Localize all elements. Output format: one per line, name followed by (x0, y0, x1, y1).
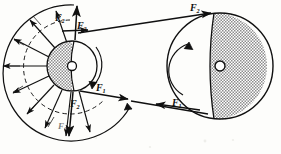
belt-lower-span-right (131, 101, 208, 114)
right-rotation-arrowhead (184, 42, 193, 50)
label-f1-right-bottom: F1 (172, 98, 182, 108)
belt-drive-diagram: F2 F2 F1 F2 F1 F2 F1 (0, 0, 281, 154)
right-pulley (167, 13, 273, 119)
left-hub-shaft (68, 62, 77, 71)
fan-outer-arc-arrowhead (124, 103, 132, 110)
label-f2-left-lower: F2 (70, 99, 80, 109)
scan-artifacts (95, 137, 234, 148)
label-f2-upper-right: F2 (77, 21, 87, 31)
diagram-canvas (0, 0, 281, 154)
label-f1-left-bottom: F1 (58, 122, 67, 131)
label-f2-upper-left: F2 (55, 13, 65, 23)
label-f1-left-lower: F1 (96, 83, 106, 93)
left-pulley-force-fan (3, 5, 132, 141)
right-pulley-shaft (215, 61, 225, 71)
belt-upper-span (78, 13, 211, 33)
label-f2-right-top: F2 (190, 3, 200, 13)
